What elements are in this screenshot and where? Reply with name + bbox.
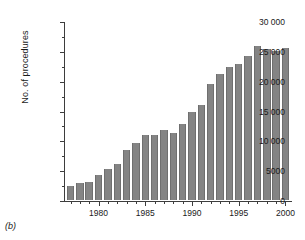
- y-tick-minor: [62, 67, 64, 68]
- y-tick-minor: [62, 186, 64, 187]
- x-tick-minor: [136, 202, 137, 204]
- x-tick-minor: [127, 202, 128, 204]
- y-tick-label: 15 000: [259, 107, 285, 117]
- x-tick-minor: [248, 202, 249, 204]
- x-tick-minor: [201, 202, 202, 204]
- bar: [179, 124, 186, 200]
- bar: [263, 49, 270, 200]
- bar: [272, 51, 279, 200]
- y-tick-label: 20 000: [259, 77, 285, 87]
- x-tick-label: 1995: [229, 208, 248, 218]
- bar: [254, 46, 261, 200]
- bar: [95, 175, 102, 200]
- y-tick-minor: [62, 156, 64, 157]
- y-tick-label: 10 000: [259, 136, 285, 146]
- y-tick-label: 5000: [266, 166, 285, 176]
- x-tick-minor: [267, 202, 268, 204]
- y-tick: [60, 171, 64, 172]
- bar: [235, 64, 242, 200]
- bar: [282, 48, 289, 200]
- bar: [85, 182, 92, 200]
- y-tick-label: 0: [280, 196, 285, 206]
- y-tick-minor: [62, 97, 64, 98]
- x-tick: [239, 202, 240, 206]
- y-tick-minor: [62, 126, 64, 127]
- x-tick: [145, 202, 146, 206]
- y-axis-line: [64, 22, 65, 202]
- x-tick: [192, 202, 193, 206]
- x-tick-minor: [108, 202, 109, 204]
- x-tick-minor: [71, 202, 72, 204]
- x-tick-minor: [229, 202, 230, 204]
- figure-panel: No. of procedures 0500010 00015 00020 00…: [0, 0, 305, 240]
- bar: [76, 183, 83, 200]
- x-tick-minor: [80, 202, 81, 204]
- x-tick-minor: [155, 202, 156, 204]
- x-tick-label: 2000: [276, 208, 295, 218]
- bar: [226, 67, 233, 200]
- y-tick: [60, 141, 64, 142]
- bar: [244, 56, 251, 200]
- x-tick-minor: [211, 202, 212, 204]
- bar: [142, 135, 149, 200]
- bar: [188, 112, 195, 200]
- bar: [67, 186, 74, 200]
- x-tick-minor: [164, 202, 165, 204]
- x-tick: [99, 202, 100, 206]
- y-tick-label: 30 000: [259, 17, 285, 27]
- x-tick: [285, 202, 286, 206]
- bar: [198, 105, 205, 200]
- bar: [132, 143, 139, 200]
- x-tick-label: 1980: [89, 208, 108, 218]
- bar: [207, 84, 214, 200]
- y-tick-label: 25 000: [259, 47, 285, 57]
- x-tick-minor: [117, 202, 118, 204]
- x-tick-minor: [173, 202, 174, 204]
- bar: [216, 74, 223, 200]
- x-tick-minor: [183, 202, 184, 204]
- bar: [170, 133, 177, 200]
- x-tick-label: 1985: [136, 208, 155, 218]
- y-tick: [60, 201, 64, 202]
- bar: [160, 130, 167, 200]
- x-tick-minor: [276, 202, 277, 204]
- x-tick-label: 1990: [183, 208, 202, 218]
- bar: [151, 135, 158, 200]
- y-tick: [60, 82, 64, 83]
- bar: [114, 164, 121, 200]
- bar: [104, 169, 111, 200]
- y-tick-minor: [62, 37, 64, 38]
- x-tick-minor: [220, 202, 221, 204]
- bar: [123, 150, 130, 200]
- y-tick: [60, 22, 64, 23]
- y-axis-title: No. of procedures: [20, 0, 30, 137]
- x-tick-minor: [89, 202, 90, 204]
- panel-caption: (b): [5, 221, 16, 231]
- x-tick-minor: [257, 202, 258, 204]
- y-tick: [60, 52, 64, 53]
- plot-area: 0500010 00015 00020 00025 00030 000 1980…: [64, 22, 292, 201]
- y-tick: [60, 112, 64, 113]
